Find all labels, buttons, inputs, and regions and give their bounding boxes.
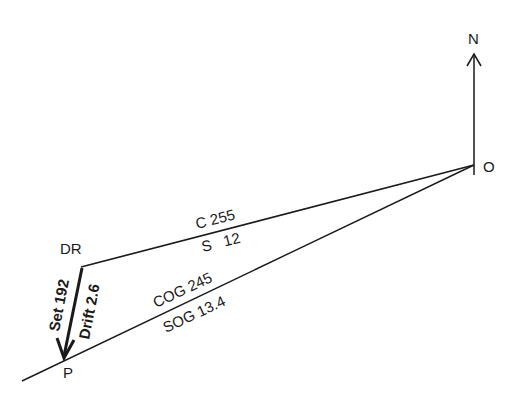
origin-label: O <box>483 158 495 175</box>
position-label: P <box>63 364 73 381</box>
ground-track-line <box>22 165 474 381</box>
current-triangle-diagram: N O DR P C 255 S 12 COG 245 SOG 13.4 Set… <box>0 0 521 400</box>
north-label: N <box>468 30 479 47</box>
speed-label: S 12 <box>200 229 242 255</box>
course-vector-line <box>81 165 474 267</box>
north-arrow-icon <box>467 54 481 175</box>
set-label: Set 192 <box>45 278 72 333</box>
dr-label: DR <box>60 240 82 257</box>
drift-label: Drift 2.6 <box>75 282 102 340</box>
